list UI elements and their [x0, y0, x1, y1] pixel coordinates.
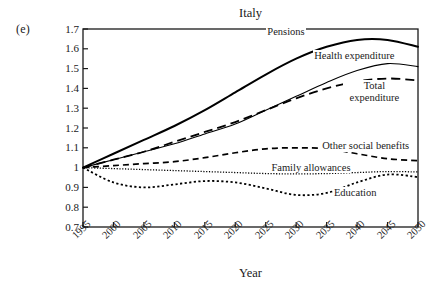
x-tick-label: 2020 — [222, 218, 245, 241]
x-tick-label: 2015 — [192, 218, 215, 241]
series-label-other-social-benefits: Other social benefits — [321, 140, 410, 152]
series-label-education: Education — [333, 187, 378, 199]
series-label-family-allowances: Family allowances — [270, 162, 351, 174]
x-tick-label: 2035 — [314, 218, 337, 241]
x-tick-label: 2050 — [405, 218, 428, 241]
x-tick-label: 2000 — [100, 218, 123, 241]
x-tick-label: 2030 — [283, 218, 306, 241]
series-label-health-expenditure: Health expenditure — [313, 50, 395, 62]
x-tick-label: 2045 — [375, 218, 398, 241]
x-tick-label: 2010 — [161, 218, 184, 241]
x-tick-label: 2040 — [344, 218, 367, 241]
series-label-total-expenditure: Total expenditure — [343, 80, 405, 103]
x-tick-label: 2005 — [131, 218, 154, 241]
series-label-pensions: Pensions — [266, 26, 305, 38]
x-tick-label: 1995 — [70, 218, 93, 241]
figure-panel: (e) Italy Public expenditure index/ work… — [0, 0, 435, 290]
x-tick-label: 2025 — [253, 218, 276, 241]
